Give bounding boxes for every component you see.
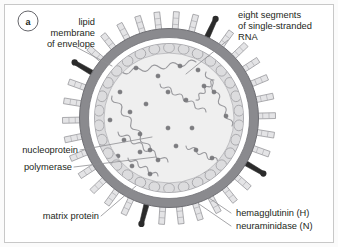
label-neuraminidase: neuraminidase (N) [236,221,312,231]
label-lipid-membrane-line1: lipid [78,17,95,27]
hemagglutinin-spike [159,205,166,224]
nucleoprotein-dot [144,102,148,106]
nucleoprotein-dot [134,66,138,70]
matrix-protein-cell [164,183,175,193]
label-nucleoprotein: nucleoprotein [22,145,78,155]
nucleoprotein-dot [108,118,112,122]
nucleoprotein-dot [210,156,214,160]
nucleoprotein-dot [156,74,160,78]
figure-panel-influenza-virus: a lipid membrane of envelope eight segme… [0,0,338,247]
nucleoprotein-dot [202,84,206,88]
label-lipid-membrane-line3: of envelope [47,39,95,49]
nucleoprotein-dot [156,158,160,162]
nucleoprotein-dot [130,164,134,168]
nucleoprotein-dot [190,126,194,130]
nucleoprotein-dot [184,98,188,102]
nucleoprotein-dot [166,126,170,130]
label-rna-segments-line2: of single-stranded [238,21,312,31]
hemagglutinin-stalk [256,113,275,119]
label-rna-segments-line1: eight segments [238,10,301,20]
hemagglutinin-stalk [62,117,81,123]
hemagglutinin-spike [172,12,179,31]
neuraminidase-head [260,170,266,176]
matrix-protein-cell [164,43,175,53]
label-rna-segments-line3: RNA [238,32,258,42]
nucleoprotein-dot [148,172,152,176]
hemagglutinin-spike [62,117,81,123]
nucleoprotein-dot [138,150,142,154]
influenza-virus-diagram: a lipid membrane of envelope eight segme… [0,0,338,247]
hemagglutinin-stalk [172,12,179,31]
nucleoprotein-dot [196,68,200,72]
label-lipid-membrane-line2: membrane [51,28,95,38]
label-matrix-protein: matrix protein [43,211,99,221]
hemagglutinin-stalk [159,205,166,224]
neuraminidase-head [72,59,78,65]
nucleoprotein-dot [212,90,216,94]
nucleoprotein-dot [174,144,178,148]
nucleoprotein-dot [166,90,170,94]
neuraminidase-head [138,221,144,227]
neuraminidase-head [212,16,218,22]
hemagglutinin-spike [256,113,275,119]
nucleoprotein-dot [138,132,142,136]
nucleoprotein-dot [118,90,122,94]
nucleoprotein-dot [128,110,132,114]
nucleoprotein-dot [194,148,198,152]
nucleoprotein-dot [178,64,182,68]
nucleoprotein-dot [224,114,228,118]
nucleoprotein-dot [148,148,152,152]
label-hemagglutinin: hemagglutinin (H) [236,208,309,218]
label-polymerase: polymerase [24,162,72,172]
